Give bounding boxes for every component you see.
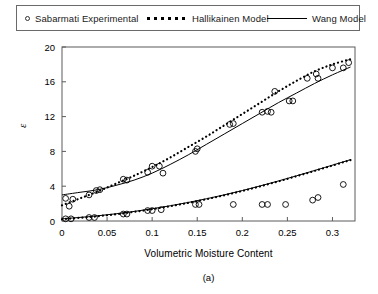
- x-tick-label: 0: [59, 227, 64, 238]
- data-point-marker: [310, 197, 316, 203]
- solid-model-curve: [62, 160, 350, 219]
- data-point-marker: [230, 202, 236, 208]
- y-tick-label: 4: [50, 181, 55, 192]
- data-series: [62, 160, 350, 219]
- dotted-model-curve: [62, 160, 350, 219]
- y-tick-label: 12: [44, 111, 55, 122]
- data-series: [63, 60, 352, 209]
- x-tick-label: 0.15: [188, 227, 207, 238]
- data-series: [62, 67, 350, 195]
- y-tick-label: 16: [44, 76, 55, 87]
- data-point-marker: [290, 98, 296, 104]
- data-point-marker: [160, 170, 166, 176]
- data-point-marker: [66, 203, 72, 209]
- x-tick-label: 0.3: [326, 227, 339, 238]
- data-point-marker: [340, 182, 346, 188]
- solid-model-curve: [62, 67, 350, 195]
- data-point-marker: [315, 195, 321, 201]
- y-tick-label: 20: [44, 42, 55, 53]
- data-point-marker: [268, 109, 274, 115]
- data-point-marker: [283, 202, 289, 208]
- y-tick-label: 8: [50, 146, 55, 157]
- x-tick-label: 0.05: [98, 227, 117, 238]
- data-point-marker: [304, 75, 310, 81]
- y-axis-title: ε: [16, 124, 28, 128]
- x-tick-label: 0.2: [236, 227, 249, 238]
- y-tick-label: 0: [50, 216, 55, 227]
- x-tick-label: 0.1: [146, 227, 159, 238]
- data-series-layer: [62, 59, 352, 222]
- x-axis-title: Volumetric Moisture Content: [62, 248, 355, 259]
- data-point-marker: [63, 195, 69, 201]
- x-tick-label: 0.25: [278, 227, 297, 238]
- data-series: [62, 160, 350, 219]
- figure-caption: (a): [62, 272, 355, 283]
- figure-container: Sabarmati Experimental Hallikainen Model…: [0, 0, 378, 294]
- data-point-marker: [259, 202, 265, 208]
- data-point-marker: [196, 202, 202, 208]
- data-point-marker: [265, 202, 271, 208]
- x-axis-ticks: 00.050.10.150.20.250.3: [59, 217, 339, 238]
